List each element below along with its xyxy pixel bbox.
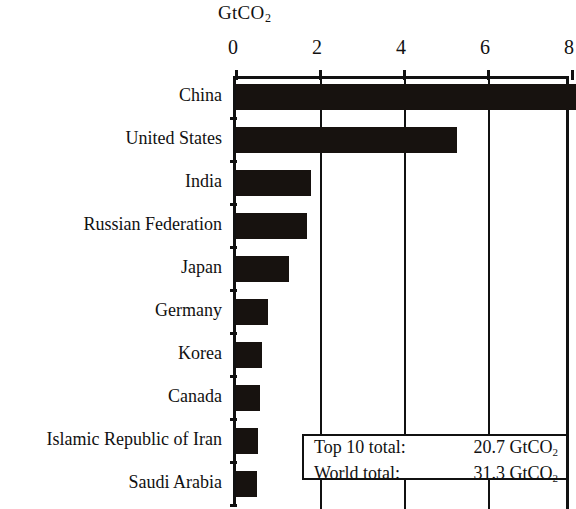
category-label-russian-federation: Russian Federation [84, 213, 222, 235]
totals-value-top10: 20.7 GtCO2 [473, 437, 558, 463]
totals-label-top10: Top 10 total: [314, 437, 416, 458]
totals-row-top10: Top 10 total: 20.7 GtCO2 [314, 437, 558, 463]
x-axis-tick-labels: 02468 [0, 34, 570, 62]
totals-value-top10-subscript: 2 [553, 446, 559, 458]
y-tickmark-6 [230, 375, 237, 378]
y-tickmark-9 [230, 504, 237, 507]
x-tick-label-6: 6 [480, 34, 490, 60]
bar-korea [236, 342, 262, 368]
totals-row-world: World total: 31.3 GtCO2 [314, 463, 558, 489]
y-tickmark-3 [230, 246, 237, 249]
x-tickmark-8 [571, 70, 574, 80]
y-tickmark-8 [230, 461, 237, 464]
category-label-japan: Japan [181, 256, 222, 278]
totals-value-top10-number: 20.7 GtCO [473, 437, 552, 457]
x-tick-label-8: 8 [564, 34, 574, 60]
category-label-korea: Korea [178, 342, 222, 364]
y-axis-category-labels: ChinaUnited StatesIndiaRussian Federatio… [0, 76, 228, 506]
x-tick-label-2: 2 [312, 34, 322, 60]
y-tickmark-4 [230, 289, 237, 292]
bar-india [236, 170, 311, 196]
x-tickmark-6 [487, 70, 490, 80]
bar-japan [236, 256, 289, 282]
y-tickmark-5 [230, 332, 237, 335]
bar-germany [236, 299, 268, 325]
y-tickmark-1 [230, 160, 237, 163]
category-label-germany: Germany [155, 299, 222, 321]
axis-unit-subscript: 2 [265, 11, 272, 25]
bar-russian-federation [236, 213, 307, 239]
totals-value-world: 31.3 GtCO2 [473, 463, 558, 489]
category-label-islamic-republic-of-iran: Islamic Republic of Iran [47, 428, 222, 450]
bar-islamic-republic-of-iran [236, 428, 258, 454]
axis-unit-title: GtCO2 [218, 2, 271, 29]
x-tickmark-0 [235, 70, 238, 80]
x-tick-label-4: 4 [396, 34, 406, 60]
totals-label-world: World total: [314, 463, 410, 484]
category-label-canada: Canada [168, 385, 222, 407]
y-tickmark-7 [230, 418, 237, 421]
bar-saudi-arabia [236, 471, 257, 497]
bar-canada [236, 385, 260, 411]
bar-china [236, 84, 576, 110]
totals-value-world-number: 31.3 GtCO [473, 463, 552, 483]
x-tick-label-0: 0 [228, 34, 238, 60]
y-tickmark-0 [230, 117, 237, 120]
totals-annotation-box: Top 10 total: 20.7 GtCO2 World total: 31… [302, 434, 568, 480]
x-tickmark-2 [319, 70, 322, 80]
category-label-india: India [185, 170, 222, 192]
axis-unit-text: GtCO [218, 2, 265, 23]
totals-value-world-subscript: 2 [553, 472, 559, 484]
category-label-saudi-arabia: Saudi Arabia [129, 471, 222, 493]
y-tickmark-2 [230, 203, 237, 206]
x-tickmark-4 [403, 70, 406, 80]
bar-united-states [236, 127, 457, 153]
category-label-china: China [179, 84, 222, 106]
category-label-united-states: United States [126, 127, 223, 149]
